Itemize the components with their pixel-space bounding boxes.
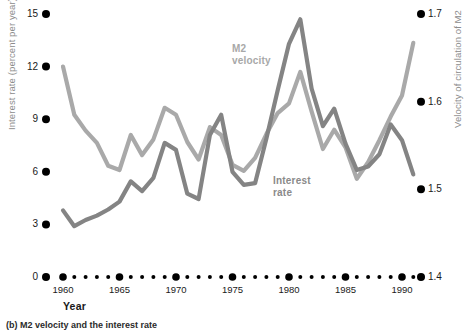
y-tick-dot-right: [417, 98, 425, 106]
y-tick-label-left: 6: [16, 166, 38, 177]
x-axis-minor-tick-dots: [72, 275, 415, 279]
y-tick-dot-right: [417, 185, 425, 193]
x-tick-dot-minor: [276, 275, 280, 279]
series-annotation-interest-rate: Interest rate: [273, 175, 311, 199]
series-annotation-m2-velocity-line2: velocity: [232, 55, 271, 67]
y-tick-dot-left: [42, 220, 50, 228]
x-tick-label: 1985: [331, 284, 361, 295]
x-tick-dot-minor: [253, 275, 257, 279]
x-tick-dot-minor: [264, 275, 268, 279]
x-tick-dot-major: [172, 273, 180, 281]
x-tick-dot-minor: [208, 275, 212, 279]
y-axis-right-title: Velocity of circulation of M2: [452, 0, 463, 128]
x-tick-dot-minor: [185, 275, 189, 279]
x-tick-dot-minor: [72, 275, 76, 279]
y-tick-label-left: 3: [16, 218, 38, 229]
y-tick-dot-left: [42, 63, 50, 71]
x-tick-dot-minor: [219, 275, 223, 279]
x-tick-label: 1965: [105, 284, 135, 295]
x-tick-dot-major: [116, 273, 124, 281]
y-tick-dot-left: [42, 273, 50, 281]
chart-figure: 03691215 1.41.51.61.7 196019651970197519…: [0, 0, 476, 330]
x-tick-dot-major: [285, 273, 293, 281]
y-axis-left-tick-dots: [42, 10, 50, 281]
x-tick-dot-minor: [310, 275, 314, 279]
x-tick-dot-minor: [129, 275, 133, 279]
x-tick-dot-minor: [163, 275, 167, 279]
x-tick-dot-major: [342, 273, 350, 281]
x-tick-dot-minor: [197, 275, 201, 279]
x-tick-dot-minor: [151, 275, 155, 279]
x-tick-dot-minor: [332, 275, 336, 279]
x-tick-label: 1960: [48, 284, 78, 295]
x-tick-label: 1980: [274, 284, 304, 295]
x-tick-dot-major: [59, 273, 67, 281]
y-tick-dot-left: [42, 168, 50, 176]
y-tick-label-left: 15: [16, 8, 38, 19]
x-tick-dot-minor: [95, 275, 99, 279]
x-tick-dot-minor: [84, 275, 88, 279]
x-tick-dot-minor: [140, 275, 144, 279]
y-axis-right-tick-dots: [417, 10, 425, 281]
x-tick-dot-minor: [298, 275, 302, 279]
y-tick-dot-left: [42, 10, 50, 18]
series-annotation-m2-velocity-line1: M2: [232, 43, 271, 55]
x-tick-dot-minor: [366, 275, 370, 279]
x-tick-dot-major: [229, 273, 237, 281]
series-annotation-m2-velocity: M2 velocity: [232, 43, 271, 67]
x-tick-dot-major: [398, 273, 406, 281]
x-axis-title: Year: [63, 300, 86, 312]
y-tick-label-left: 0: [16, 271, 38, 282]
y-tick-label-right: 1.5: [428, 183, 458, 194]
x-tick-dot-minor: [411, 275, 415, 279]
x-axis-major-tick-dots: [59, 273, 406, 281]
x-tick-dot-minor: [377, 275, 381, 279]
x-tick-label: 1970: [161, 284, 191, 295]
y-tick-label-right: 1.4: [428, 271, 458, 282]
x-tick-dot-minor: [321, 275, 325, 279]
series-annotation-interest-rate-line2: rate: [273, 187, 311, 199]
x-tick-dot-minor: [242, 275, 246, 279]
x-tick-dot-minor: [389, 275, 393, 279]
x-tick-label: 1975: [218, 284, 248, 295]
y-tick-dot-left: [42, 115, 50, 123]
figure-caption: (b) M2 velocity and the interest rate: [6, 320, 466, 330]
y-tick-label-left: 12: [16, 61, 38, 72]
x-tick-label: 1990: [387, 284, 417, 295]
series-annotation-interest-rate-line1: Interest: [273, 175, 311, 187]
x-tick-dot-minor: [355, 275, 359, 279]
y-axis-left-title: Interest rate (percent per year): [6, 0, 17, 130]
y-tick-dot-right: [417, 10, 425, 18]
x-tick-dot-minor: [106, 275, 110, 279]
y-tick-label-left: 9: [16, 113, 38, 124]
y-tick-dot-right: [417, 273, 425, 281]
